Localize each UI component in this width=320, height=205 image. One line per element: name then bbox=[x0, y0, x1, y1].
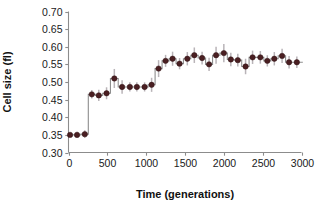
x-tick-label: 0 bbox=[67, 157, 73, 169]
data-point bbox=[265, 58, 270, 63]
data-point bbox=[243, 64, 248, 69]
data-point bbox=[134, 84, 139, 89]
data-point bbox=[127, 84, 132, 89]
y-tick-label: 0.50 bbox=[42, 76, 63, 88]
data-point bbox=[96, 93, 101, 98]
data-point bbox=[89, 92, 94, 97]
data-point bbox=[170, 56, 175, 61]
x-axis-title: Time (generations) bbox=[136, 188, 235, 200]
data-point bbox=[250, 55, 255, 60]
y-axis-tick-labels: 0.300.350.400.450.500.550.600.650.70 bbox=[42, 6, 63, 159]
y-tick-label: 0.40 bbox=[42, 111, 63, 123]
data-point bbox=[67, 132, 72, 137]
data-point bbox=[279, 53, 284, 58]
cell-size-scatter-chart: 0.300.350.400.450.500.550.600.650.70 050… bbox=[0, 0, 320, 205]
figure-container: 0.300.350.400.450.500.550.600.650.70 050… bbox=[0, 0, 320, 205]
y-axis-title: Cell size (fl) bbox=[1, 51, 13, 112]
data-point bbox=[213, 53, 218, 58]
data-point bbox=[163, 58, 168, 63]
x-tick-label: 2000 bbox=[213, 157, 237, 169]
y-tick-label: 0.65 bbox=[42, 23, 63, 35]
data-point bbox=[156, 66, 161, 71]
y-tick-label: 0.30 bbox=[42, 147, 63, 159]
x-tick-label: 2500 bbox=[252, 157, 276, 169]
x-tick-label: 3000 bbox=[291, 157, 315, 169]
y-tick-label: 0.35 bbox=[42, 129, 63, 141]
data-point bbox=[221, 50, 226, 55]
x-tick-label: 1000 bbox=[135, 157, 159, 169]
data-point bbox=[258, 55, 263, 60]
data-point bbox=[185, 56, 190, 61]
data-point bbox=[235, 57, 240, 62]
y-tick-label: 0.60 bbox=[42, 41, 63, 53]
data-point bbox=[294, 60, 299, 65]
data-point bbox=[206, 62, 211, 67]
data-point bbox=[104, 91, 109, 96]
x-tick-label: 1500 bbox=[174, 157, 198, 169]
x-tick-label: 500 bbox=[99, 157, 117, 169]
data-point bbox=[272, 56, 277, 61]
y-tick-label: 0.55 bbox=[42, 58, 63, 70]
y-tick-label: 0.70 bbox=[42, 6, 63, 18]
data-point bbox=[82, 131, 87, 136]
data-point bbox=[112, 76, 117, 81]
data-point bbox=[228, 57, 233, 62]
data-point bbox=[192, 53, 197, 58]
y-tick-label: 0.45 bbox=[42, 94, 63, 106]
data-point bbox=[119, 84, 124, 89]
data-point bbox=[177, 61, 182, 66]
data-point bbox=[286, 60, 291, 65]
data-point bbox=[142, 84, 147, 89]
data-point bbox=[149, 82, 154, 87]
data-point bbox=[199, 55, 204, 60]
data-point bbox=[74, 132, 79, 137]
